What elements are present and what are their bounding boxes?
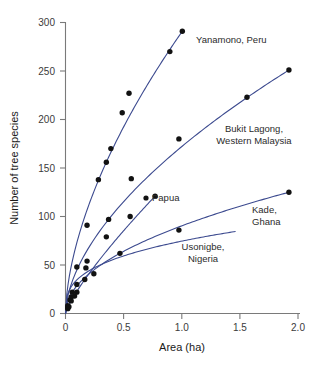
- y-tick-label-250: 250: [38, 66, 55, 77]
- y-tick-label-300: 300: [38, 17, 55, 28]
- x-tick-label-0: 0: [63, 322, 69, 333]
- data-point: [83, 265, 88, 270]
- data-point: [84, 223, 89, 228]
- data-point: [176, 136, 181, 141]
- data-point: [126, 91, 131, 96]
- y-tick-label-0: 0: [49, 308, 55, 319]
- data-point: [72, 293, 77, 298]
- data-point: [104, 159, 109, 164]
- data-point: [74, 264, 79, 269]
- data-point: [66, 304, 71, 309]
- data-point: [106, 217, 111, 222]
- y-axis-title: Number of tree species: [8, 111, 20, 225]
- annotation-kade-ghana-line1: Kade,: [252, 204, 277, 215]
- annotation-bukit-lagong-line1: Bukit Lagong,: [225, 123, 283, 134]
- species-area-chart: 300 250 200 150 100 50 0 0 0.5 1.0 1.5 2…: [0, 0, 314, 366]
- annotation-papua: Papua: [152, 192, 180, 203]
- data-point: [74, 282, 79, 287]
- data-point: [244, 94, 249, 99]
- curves-group: [66, 31, 289, 313]
- annotation-leaders: [143, 195, 148, 200]
- data-point: [180, 29, 185, 34]
- data-point: [176, 227, 181, 232]
- x-tick-label-1-5: 1.5: [233, 322, 247, 333]
- data-point: [82, 277, 87, 282]
- data-markers-group: [65, 29, 292, 312]
- annotation-usonigbe-nigeria-line1: Usonigbe,: [182, 241, 225, 252]
- data-point: [286, 190, 291, 195]
- x-axis-title: Area (ha): [159, 341, 205, 353]
- annotation-yanamono-peru: Yanamono, Peru: [196, 34, 267, 45]
- x-tick-label-0-5: 0.5: [117, 322, 131, 333]
- x-axis-tick-labels: 0 0.5 1.0 1.5 2.0: [63, 322, 306, 333]
- axes-group: [66, 22, 301, 314]
- data-point: [127, 214, 132, 219]
- data-point: [91, 271, 96, 276]
- data-point: [96, 177, 101, 182]
- y-axis-tick-labels: 300 250 200 150 100 50 0: [38, 17, 55, 319]
- annotation-bukit-lagong-line2: Western Malaysia: [216, 135, 292, 146]
- y-tick-label-50: 50: [44, 260, 56, 271]
- curve-yanamono-peru: [66, 31, 183, 313]
- chart-canvas: 300 250 200 150 100 50 0 0 0.5 1.0 1.5 2…: [0, 0, 314, 366]
- y-axis-ticks: [60, 23, 66, 314]
- data-point: [129, 176, 134, 181]
- y-tick-label-200: 200: [38, 114, 55, 125]
- data-point: [167, 49, 172, 54]
- data-point: [84, 258, 89, 263]
- y-tick-label-100: 100: [38, 211, 55, 222]
- data-point: [104, 234, 109, 239]
- data-point: [120, 110, 125, 115]
- x-axis-ticks: [66, 314, 299, 320]
- curve-papua: [66, 196, 156, 313]
- annotation-kade-ghana-line2: Ghana: [252, 216, 281, 227]
- data-point: [108, 146, 113, 151]
- papua-label-marker: [143, 195, 148, 200]
- annotation-usonigbe-nigeria-line2: Nigeria: [188, 253, 219, 264]
- x-tick-label-1-0: 1.0: [175, 322, 189, 333]
- y-tick-label-150: 150: [38, 163, 55, 174]
- data-point: [286, 67, 291, 72]
- data-point: [117, 251, 122, 256]
- x-tick-label-2-0: 2.0: [291, 322, 305, 333]
- data-point: [68, 298, 73, 303]
